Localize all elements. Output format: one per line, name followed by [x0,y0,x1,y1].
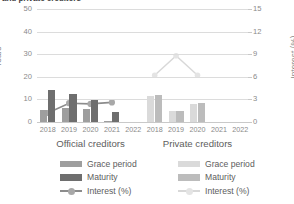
bar-maturity-official-2019 [69,94,76,123]
y-tick-right: 0 [253,117,275,126]
chart-title: and private creditors [2,0,202,3]
y-tick-left: 50 [10,4,32,13]
legend-color-swatch [60,161,82,168]
x-tick-official-2021: 2021 [100,125,124,134]
x-tick-official-2022: 2022 [121,125,145,134]
y-tick-right: 3 [253,94,275,103]
legend-item-official-2[interactable]: Interest (%) [60,184,137,198]
panel-label-official: Official creditors [37,138,144,149]
legend-color-swatch [178,161,200,168]
y-tick-right: 15 [253,4,275,13]
y-tick-mark-right [248,54,252,55]
legend-color-swatch [60,174,82,181]
legend-private: Grace periodMaturityInterest (%) [178,157,255,198]
y-tick-left: 10 [10,94,32,103]
legend-item-private-0[interactable]: Grace period [178,157,255,171]
bar-grace-period-private-2019 [169,111,176,122]
bar-maturity-private-2018 [155,95,162,122]
legend-label: Maturity [87,172,118,182]
legend-label: Interest (%) [87,186,131,196]
legend-label: Maturity [205,172,236,182]
gridline [37,54,251,55]
bar-grace-period-private-2018 [147,96,154,122]
x-tick-private-2021: 2021 [207,125,231,134]
y-tick-mark-right [248,9,252,10]
y-tick-right: 9 [253,49,275,58]
legend-label: Interest (%) [205,186,249,196]
legend-item-private-2[interactable]: Interest (%) [178,184,255,198]
legend-line-marker-icon [178,187,200,194]
plot-area [37,9,251,122]
bar-grace-period-official-2021 [104,121,111,122]
y-tick-right: 6 [253,72,275,81]
y-tick-left: 40 [10,27,32,36]
bar-maturity-official-2021 [112,112,119,122]
y-tick-mark-right [248,77,252,78]
bar-maturity-official-2020 [91,100,98,122]
y-axis-right-title: Interest (%) [289,35,294,78]
x-tick-private-2019: 2019 [164,125,188,134]
x-tick-official-2018: 2018 [36,125,60,134]
interest-line-official [48,102,112,113]
bar-grace-period-official-2020 [83,109,90,122]
y-tick-mark-right [248,32,252,33]
y-tick-right: 12 [253,27,275,36]
x-tick-official-2020: 2020 [79,125,103,134]
bar-grace-period-private-2020 [190,104,197,123]
legend-line-marker-icon [60,187,82,194]
gridline [37,77,251,78]
legend-item-private-1[interactable]: Maturity [178,171,255,185]
bar-maturity-official-2018 [48,90,55,122]
bar-grace-period-official-2018 [40,110,47,122]
legend-item-official-0[interactable]: Grace period [60,157,137,171]
legend-item-official-1[interactable]: Maturity [60,171,137,185]
legend-color-swatch [178,174,200,181]
gridline [37,32,251,33]
bar-grace-period-official-2019 [62,108,69,122]
y-tick-mark-right [248,99,252,100]
axis-baseline [37,122,251,123]
gridline [37,9,251,10]
chart-page: and private creditors 01020304050 036912… [0,0,294,204]
bar-maturity-private-2020 [198,103,205,122]
y-tick-left: 30 [10,49,32,58]
bar-maturity-private-2019 [176,111,183,122]
x-tick-private-2022: 2022 [228,125,252,134]
y-tick-mark-right [248,122,252,123]
legend-official: Grace periodMaturityInterest (%) [60,157,137,198]
x-tick-official-2019: 2019 [57,125,81,134]
interest-line-private [155,56,198,76]
legend-label: Grace period [205,159,255,169]
y-tick-left: 20 [10,72,32,81]
x-tick-private-2018: 2018 [143,125,167,134]
legend-label: Grace period [87,159,137,169]
x-tick-private-2020: 2020 [186,125,210,134]
y-tick-left: 0 [10,117,32,126]
y-axis-left-title: Years [0,46,3,67]
panel-label-private: Private creditors [144,138,251,149]
